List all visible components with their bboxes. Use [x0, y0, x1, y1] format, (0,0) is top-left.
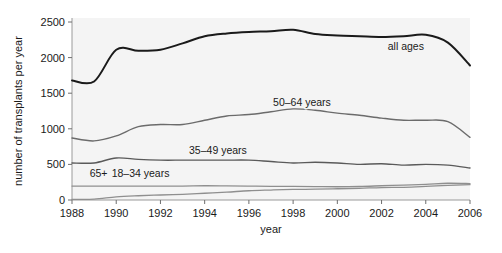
x-axis-tick-label: 1994: [192, 207, 216, 219]
x-axis-title: year: [260, 223, 282, 235]
series-label-65: 65+: [90, 167, 108, 179]
y-axis-tick-label: 1000: [41, 123, 65, 135]
y-axis-tick-label: 1500: [41, 87, 65, 99]
x-axis-tick-label: 1988: [60, 207, 84, 219]
x-axis-tick-label: 2002: [369, 207, 393, 219]
x-axis-tick-label: 1998: [281, 207, 305, 219]
transplants-by-age-line-chart: 0500100015002000250019881990199219941996…: [0, 0, 502, 253]
y-axis-tick-label: 2000: [41, 52, 65, 64]
y-axis-tick-label: 2500: [41, 16, 65, 28]
series-label-50-64-years: 50–64 years: [273, 96, 331, 108]
chart-figure: 0500100015002000250019881990199219941996…: [0, 0, 502, 253]
x-axis-tick-label: 1996: [237, 207, 261, 219]
x-axis-tick-label: 2000: [325, 207, 349, 219]
series-label-all-ages: all ages: [388, 40, 424, 52]
series-label-18-34-years: 18–34 years: [112, 167, 170, 179]
x-axis-tick-label: 2006: [458, 207, 482, 219]
x-axis-tick-label: 1992: [148, 207, 172, 219]
y-axis-tick-label: 0: [59, 194, 65, 206]
figure-caption: [0, 243, 502, 253]
y-axis-tick-label: 500: [47, 158, 65, 170]
x-axis-tick-label: 1990: [104, 207, 128, 219]
y-axis-title: number of transplants per year: [12, 36, 24, 186]
x-axis-tick-label: 2004: [414, 207, 438, 219]
series-label-35-49-years: 35–49 years: [189, 144, 247, 156]
